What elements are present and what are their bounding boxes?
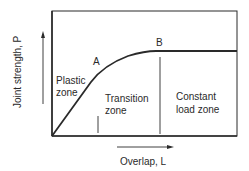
arrow-right-icon — [167, 145, 174, 149]
point-b-label: B — [156, 37, 163, 48]
diagram-canvas — [0, 0, 249, 171]
point-a-label: A — [93, 56, 100, 67]
plot-frame — [52, 11, 237, 136]
arrow-up-icon — [41, 31, 45, 38]
zone-constant-line2: load zone — [176, 104, 219, 115]
zone-transition-line1: Transition — [105, 93, 149, 104]
zone-plastic-line1: Plastic — [56, 75, 85, 86]
x-axis-label: Overlap, L — [120, 156, 166, 167]
zone-plastic-line2: zone — [56, 87, 78, 98]
y-axis-label: Joint strength, P — [12, 36, 23, 108]
zone-transition-line2: zone — [105, 105, 127, 116]
zone-constant-line1: Constant — [176, 91, 216, 102]
